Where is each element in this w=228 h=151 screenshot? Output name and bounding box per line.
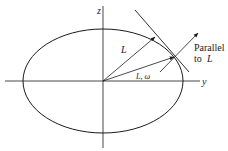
omega-label: L, ω: [135, 72, 150, 81]
parallel-label-line1: Parallel: [194, 42, 225, 53]
parallel-label-line2: to: [194, 53, 202, 64]
parallel-label-symbol: L: [206, 53, 213, 64]
z-axis-label: z: [96, 5, 101, 16]
ellipsoid-diagram: z y L L, ω Parallel to L: [0, 0, 228, 151]
angular-momentum-label: L: [120, 44, 127, 55]
tangent-line: [135, 10, 189, 72]
y-axis-label: y: [201, 76, 207, 87]
normal-arrow: [160, 33, 198, 72]
